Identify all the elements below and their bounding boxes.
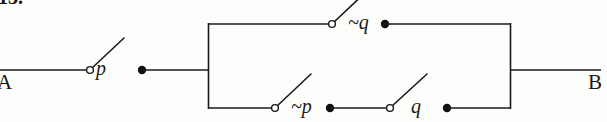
switch-not-q-pivot-icon[interactable] xyxy=(329,21,336,28)
switch-q-pivot-icon[interactable] xyxy=(387,105,394,112)
switch-label-not-q: ~q xyxy=(348,12,369,32)
figure-canvas: 13. A B p ~q ~p xyxy=(0,0,607,122)
switch-q-blade[interactable] xyxy=(391,74,427,107)
switch-not-p-pivot-icon[interactable] xyxy=(272,105,279,112)
switch-label-not-p: ~p xyxy=(291,96,312,116)
terminal-label-b: B xyxy=(588,72,602,93)
switch-p-pivot-icon[interactable] xyxy=(87,67,94,74)
switch-label-p: p xyxy=(96,58,106,78)
terminal-label-a: A xyxy=(0,72,12,93)
switch-label-q: q xyxy=(411,96,421,116)
